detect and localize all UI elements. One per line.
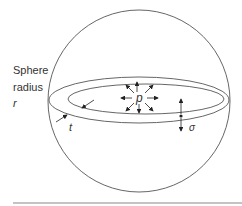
radius-label: radius [13,81,43,93]
stress-label: σ [189,122,195,134]
sphere-stress-diagram [0,0,242,206]
sphere-label: Sphere [13,64,48,76]
inner-section-ellipse [68,84,224,114]
pressure-label: p [136,92,143,104]
thickness-label: t [69,121,72,133]
stress-point [179,114,182,117]
radius-variable: r [13,97,17,109]
